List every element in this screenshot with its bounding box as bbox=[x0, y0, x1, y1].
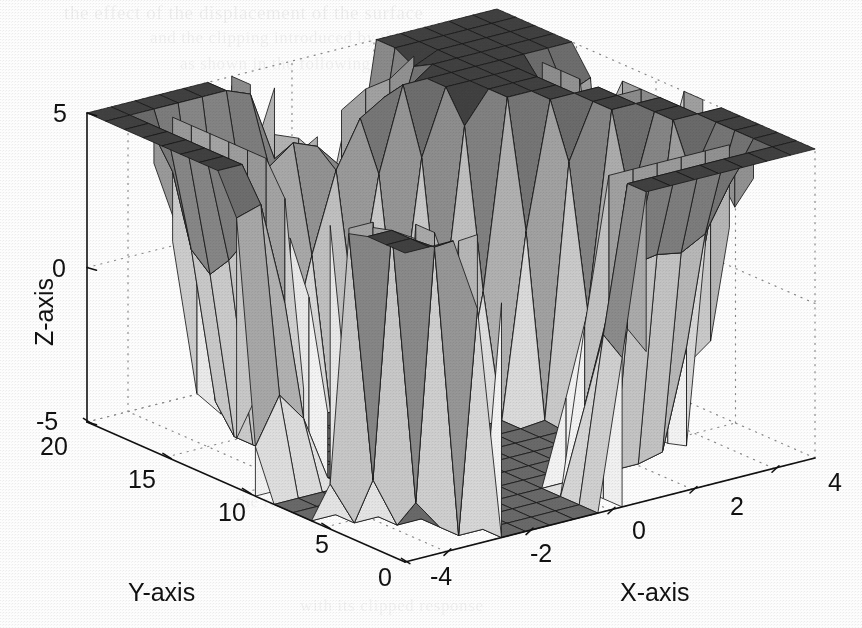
x-tick-4: 4 bbox=[828, 468, 842, 497]
z-tick-5: 5 bbox=[53, 99, 67, 128]
y-tick-0: 0 bbox=[378, 563, 392, 592]
surface-plot-svg bbox=[0, 0, 862, 628]
figure-canvas: the effect of the displacement of the su… bbox=[0, 0, 862, 628]
y-tick-10: 10 bbox=[218, 498, 246, 527]
x-tick-m2: -2 bbox=[530, 539, 552, 568]
y-tick-5: 5 bbox=[315, 530, 329, 559]
x-axis-title: X-axis bbox=[620, 578, 689, 607]
z-axis-title: Z-axis bbox=[30, 278, 59, 346]
surface-mesh bbox=[87, 9, 815, 538]
x-tick-2: 2 bbox=[730, 492, 744, 521]
y-axis-title: Y-axis bbox=[128, 578, 195, 607]
y-tick-15: 15 bbox=[128, 465, 156, 494]
x-tick-m4: -4 bbox=[430, 562, 452, 591]
y-tick-20: 20 bbox=[40, 432, 68, 461]
x-tick-0: 0 bbox=[632, 516, 646, 545]
